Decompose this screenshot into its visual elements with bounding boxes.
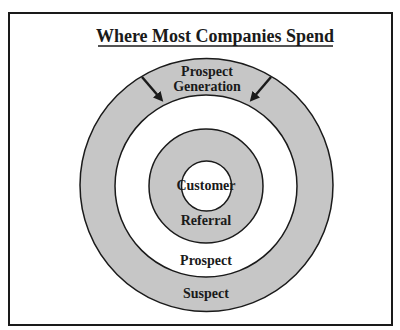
diagram-title: Where Most Companies Spend (96, 26, 334, 46)
target-diagram: Where Most Companies Spend Prospect Gene… (0, 0, 400, 330)
label-referral: Referral (181, 213, 232, 228)
label-prospect-generation-line2: Generation (173, 79, 241, 94)
label-prospect-generation-line1: Prospect (181, 64, 233, 79)
label-customer: Customer (176, 178, 235, 193)
label-prospect: Prospect (180, 253, 232, 268)
label-suspect: Suspect (183, 286, 229, 301)
